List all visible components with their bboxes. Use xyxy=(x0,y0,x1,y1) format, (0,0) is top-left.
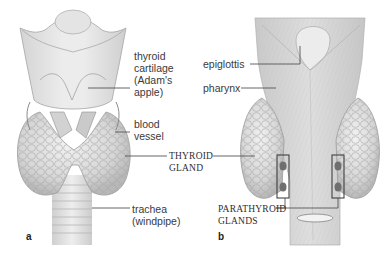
label-thyroid-cartilage: thyroid cartilage (Adam's apple) xyxy=(134,50,174,98)
thyroid-anatomy-figure: thyroid cartilage (Adam's apple) blood v… xyxy=(0,0,383,255)
label-pharynx: pharynx xyxy=(203,82,240,94)
panel-a-illustration xyxy=(17,10,130,245)
label-parathyroid-glands: PARATHYROID GLANDS xyxy=(218,204,286,227)
anatomy-illustration xyxy=(0,0,383,255)
panel-letter-b: b xyxy=(218,231,224,242)
panel-letter-a: a xyxy=(26,231,32,242)
label-trachea: trachea (windpipe) xyxy=(132,203,180,227)
label-thyroid-gland: THYROID GLAND xyxy=(169,151,213,174)
label-blood-vessel: blood vessel xyxy=(134,118,164,142)
label-epiglottis: epiglottis xyxy=(203,58,244,70)
